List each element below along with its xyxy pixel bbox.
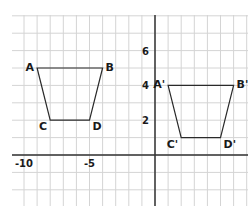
vertex-label: D' <box>224 138 237 151</box>
x-tick-label: -5 <box>84 158 95 169</box>
trapezoid-a-primeb-primec-primed-prime <box>168 85 234 137</box>
y-tick-label: 4 <box>142 80 149 91</box>
y-tick-label: 2 <box>142 115 149 126</box>
vertex-label: C' <box>167 138 178 151</box>
vertex-label: C <box>39 120 47 133</box>
vertex-label: D <box>93 120 102 133</box>
vertex-label: B' <box>237 78 249 91</box>
vertex-label: B <box>106 61 114 74</box>
vertex-label: A' <box>153 78 165 91</box>
y-tick-label: 6 <box>142 46 149 57</box>
vertex-label: A <box>26 61 35 74</box>
x-tick-label: -10 <box>15 158 33 169</box>
coordinate-grid-diagram: -10-5246 ABDCA'B'D'C' <box>0 0 251 208</box>
trapezoid-abcd <box>37 68 103 120</box>
